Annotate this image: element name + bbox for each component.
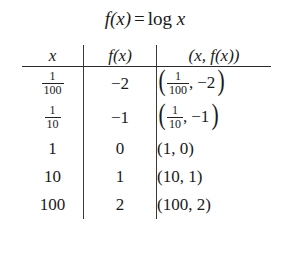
title-function-name: f(x) — [105, 8, 131, 29]
cell-x: 10 — [22, 163, 84, 191]
fraction-denominator: 100 — [167, 84, 189, 97]
table-row: 1 0 (1, 0) — [22, 135, 271, 163]
table-row: 100 2 (100, 2) — [22, 191, 271, 219]
ordered-pair: (110,−1) — [157, 107, 220, 126]
pair-right-value: −2 — [197, 73, 216, 92]
fraction-pair-left: 110 — [167, 104, 183, 131]
cell-x: 1 100 — [22, 67, 84, 102]
cell-fx: 1 — [84, 163, 157, 191]
cell-pair: (1100,−2) — [157, 67, 272, 102]
log-table-figure: f(x)=log x x f(x) (x, f(x)) 1 100 — [0, 0, 290, 260]
log-values-table: x f(x) (x, f(x)) 1 100 −2 (11 — [22, 45, 271, 219]
column-header-x: x — [22, 45, 84, 67]
table-body: 1 100 −2 (1100,−2) 1 10 — [22, 67, 271, 220]
fraction-x: 1 100 — [42, 70, 64, 97]
cell-x: 1 10 — [22, 101, 84, 135]
pair-comma: , — [189, 73, 193, 92]
fraction-pair-left: 1100 — [167, 70, 189, 97]
cell-pair: (110,−1) — [157, 101, 272, 135]
cell-pair: (1, 0) — [157, 135, 272, 163]
fraction-numerator: 1 — [167, 70, 189, 84]
cell-fx: −2 — [84, 67, 157, 102]
fraction-numerator: 1 — [42, 70, 64, 84]
cell-x: 1 — [22, 135, 84, 163]
cell-fx: 2 — [84, 191, 157, 219]
pair-comma: , — [183, 107, 187, 126]
pair-right-value: −1 — [191, 107, 210, 126]
cell-fx: 0 — [84, 135, 157, 163]
fraction-numerator: 1 — [45, 104, 61, 118]
fraction-x: 1 10 — [45, 104, 61, 131]
column-header-fx: f(x) — [84, 45, 157, 67]
figure-title: f(x)=log x — [0, 6, 290, 32]
fraction-denominator: 100 — [42, 84, 64, 97]
cell-x: 100 — [22, 191, 84, 219]
title-expression: log — [148, 8, 172, 29]
column-header-pair: (x, f(x)) — [157, 45, 272, 67]
title-argument: x — [177, 8, 185, 29]
table-row: 10 1 (10, 1) — [22, 163, 271, 191]
table-container: x f(x) (x, f(x)) 1 100 −2 (11 — [22, 45, 269, 219]
fraction-numerator: 1 — [167, 104, 183, 118]
cell-pair: (100, 2) — [157, 191, 272, 219]
cell-pair: (10, 1) — [157, 163, 272, 191]
cell-fx: −1 — [84, 101, 157, 135]
fraction-denominator: 10 — [45, 118, 61, 131]
table-header: x f(x) (x, f(x)) — [22, 45, 271, 67]
header-row: x f(x) (x, f(x)) — [22, 45, 271, 67]
table-row: 1 10 −1 (110,−1) — [22, 101, 271, 135]
ordered-pair: (1100,−2) — [157, 73, 226, 92]
title-equals: = — [131, 8, 148, 29]
fraction-denominator: 10 — [167, 118, 183, 131]
table-row: 1 100 −2 (1100,−2) — [22, 67, 271, 102]
